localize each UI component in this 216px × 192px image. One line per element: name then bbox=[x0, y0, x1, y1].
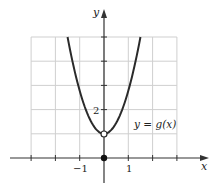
tick-label-2: 2 bbox=[93, 105, 99, 116]
y-axis-label: y bbox=[92, 6, 100, 19]
tick-label-1: 1 bbox=[126, 163, 132, 174]
x-axis bbox=[10, 155, 209, 161]
y-axis-arrow-icon bbox=[101, 9, 107, 18]
open-point bbox=[101, 131, 107, 137]
x-axis-label: x bbox=[201, 160, 208, 173]
tick-label-neg1: −1 bbox=[73, 163, 88, 174]
filled-point bbox=[101, 155, 107, 161]
graph-canvas: y x −1 1 2 y = g(x) bbox=[0, 0, 216, 192]
curve-label: y = g(x) bbox=[133, 118, 176, 130]
